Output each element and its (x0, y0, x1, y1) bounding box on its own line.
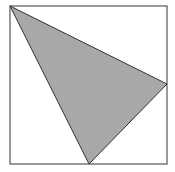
diagram-canvas (0, 0, 175, 172)
